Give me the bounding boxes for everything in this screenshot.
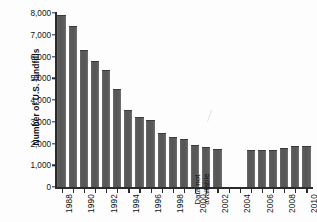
bar	[102, 70, 110, 187]
x-tick-mark	[262, 188, 263, 193]
x-tick-label: 1992	[110, 194, 119, 213]
bar	[169, 137, 177, 187]
x-tick-mark	[217, 188, 218, 193]
annotation-line-1: Data not	[193, 173, 202, 205]
x-tick-label: 2002	[221, 194, 230, 213]
x-tick-label: 1990	[87, 194, 96, 213]
x-tick-mark	[273, 188, 274, 193]
bar	[302, 146, 310, 187]
x-axis-labels: 1988199019921994199619982000200220042006…	[56, 194, 312, 222]
bar	[124, 110, 132, 187]
x-tick-mark	[84, 188, 85, 193]
x-tick-mark	[173, 188, 174, 193]
bar	[57, 15, 65, 187]
bar	[280, 148, 288, 187]
annotation-line-2: available	[203, 173, 212, 205]
x-tick-label: 2004	[243, 194, 252, 213]
x-tick-mark	[229, 188, 230, 193]
x-tick-label: 1994	[132, 194, 141, 213]
bar	[269, 150, 277, 187]
plot-area: 8,0007,0006,0005,0004,0003,0002,0001,000…	[56, 13, 312, 187]
bar	[91, 61, 99, 187]
bar	[158, 133, 166, 187]
y-tick-label: 4,000	[31, 96, 57, 105]
x-tick-mark	[295, 188, 296, 193]
x-tick-mark	[106, 188, 107, 193]
x-tick-label: 1988	[65, 194, 74, 213]
x-tick-mark	[284, 188, 285, 193]
x-tick-mark	[139, 188, 140, 193]
x-tick-mark	[62, 188, 63, 193]
bar	[146, 120, 154, 187]
bar	[180, 139, 188, 187]
x-tick-mark	[128, 188, 129, 193]
x-tick-mark	[95, 188, 96, 193]
x-tick-label: 2010	[310, 194, 317, 213]
x-tick-mark	[151, 188, 152, 193]
x-tick-mark	[162, 188, 163, 193]
x-tick-mark	[117, 188, 118, 193]
bar	[213, 149, 221, 187]
y-tick-label: 6,000	[31, 52, 57, 61]
y-tick-label: 5,000	[31, 74, 57, 83]
x-tick-mark	[240, 188, 241, 193]
x-tick-label: 2008	[288, 194, 297, 213]
bar	[247, 150, 255, 187]
y-tick-label: 8,000	[31, 9, 57, 18]
x-tick-mark	[251, 188, 252, 193]
bar	[80, 50, 88, 187]
x-tick-mark	[184, 188, 185, 193]
x-tick-label: 2006	[266, 194, 275, 213]
x-tick-mark	[306, 188, 307, 193]
x-tick-mark	[73, 188, 74, 193]
y-tick-label: 2,000	[31, 139, 57, 148]
bar	[69, 26, 77, 187]
data-not-available-annotation: Data not available	[193, 173, 212, 205]
bar	[135, 117, 143, 187]
bar	[291, 146, 299, 187]
bar	[113, 89, 121, 187]
y-tick-label: 0	[46, 183, 56, 192]
y-tick-label: 3,000	[31, 117, 57, 126]
x-tick-label: 1996	[154, 194, 163, 213]
y-tick-label: 1,000	[31, 161, 57, 170]
x-tick-label: 1998	[176, 194, 185, 213]
landfill-bar-chart: Number of U.S. landfills 8,0007,0006,000…	[0, 0, 317, 222]
y-tick-label: 7,000	[31, 30, 57, 39]
bar	[258, 150, 266, 187]
